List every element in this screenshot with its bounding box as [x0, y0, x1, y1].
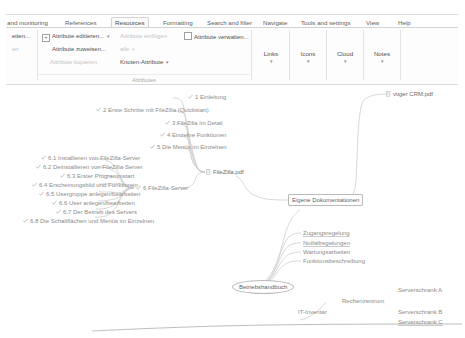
node-label: 6.4 Erscheinungsbild und Funktionen — [39, 182, 138, 188]
check-icon — [39, 191, 44, 197]
cloud-button[interactable]: Cloud ▾ — [330, 40, 360, 74]
attribute-kopieren-button: Attribute kopieren — [50, 58, 97, 66]
chevron-down-icon-notes[interactable]: ▾ — [367, 58, 397, 64]
node-2-erste-schritte[interactable]: 2 Erste Schritte mit FileZilla (Quicksta… — [96, 106, 209, 114]
mindmap-canvas[interactable]: 1 Einleitung 2 Erste Schritte mit FileZi… — [0, 88, 465, 338]
node-label: 4 Einzelne Funktionen — [167, 132, 226, 138]
checkbox-icon[interactable] — [184, 32, 192, 40]
notes-label: Notes — [367, 49, 397, 58]
group-separator-3 — [289, 30, 290, 80]
chevron-down-icon[interactable]: ▾ — [107, 32, 110, 40]
node-label: 6.6 User anlegen/bearbeiten — [59, 200, 135, 206]
group-separator-2 — [251, 30, 252, 80]
node-serverschrank-c[interactable]: Serverschrank C — [398, 318, 443, 326]
knoten-attribute-label: Knoten-Attribute — [120, 59, 163, 65]
check-icon — [150, 144, 155, 150]
chevron-down-icon-cloud[interactable]: ▾ — [330, 58, 360, 64]
group-separator-1 — [37, 30, 38, 80]
node-label: 6.2 Deinstallieren von FileZilla-Server — [43, 164, 143, 170]
ribbon-body: eiten... en +Attribute editieren...▾ Att… — [6, 28, 458, 84]
node-4-einzelne-funktionen[interactable]: 4 Einzelne Funktionen — [160, 131, 226, 139]
attribute-editieren-label: Attribute editieren... — [52, 33, 104, 39]
node-it-inventar[interactable]: IT-Inventar — [298, 308, 327, 316]
node-serverschrank-b[interactable]: Serverschrank B — [398, 308, 442, 316]
check-icon — [160, 132, 165, 138]
node-6-3-erster-programmstart[interactable]: 6.3 Erster Programmstart — [60, 172, 134, 180]
node-6-5-usergruppe[interactable]: 6.5 Usergruppe anlegen/bearbeiten — [39, 190, 140, 198]
node-6-6-user-anlegen[interactable]: 6.6 User anlegen/bearbeiten — [52, 199, 135, 207]
check-icon — [23, 218, 28, 224]
check-icon — [96, 107, 101, 113]
attribute-editieren-button[interactable]: +Attribute editieren...▾ — [42, 32, 110, 42]
node-rechenzentrum[interactable]: Rechenzentrum — [342, 297, 384, 305]
pdf-icon — [386, 91, 391, 97]
node-serverschrank-a[interactable]: Serverschrank A — [398, 286, 442, 294]
node-label: 6.7 Der Betrieb des Servers — [63, 209, 137, 215]
node-label: FileZilla.pdf — [213, 169, 244, 175]
links-label: Links — [256, 49, 286, 58]
check-icon — [52, 200, 57, 206]
attribute-verwalten-button[interactable]: Attribute verwalten... — [184, 32, 249, 41]
chevron-down-icon-knoten[interactable]: ▾ — [166, 58, 169, 66]
check-icon — [188, 94, 193, 100]
attribute-verwalten-label: Attribute verwalten... — [194, 34, 249, 40]
attribute-zuweisen-button[interactable]: Attribute zuweisen... — [52, 45, 106, 53]
node-6-2-deinstallieren[interactable]: 6.2 Deinstallieren von FileZilla-Server — [36, 163, 143, 171]
node-6-1-installieren[interactable]: 6.1 Installieren von FileZilla-Server — [41, 154, 140, 162]
check-icon — [41, 155, 46, 161]
node-label: 6.1 Installieren von FileZilla-Server — [48, 155, 140, 161]
attributes-group-footline — [38, 74, 250, 75]
cloud-label: Cloud — [330, 49, 360, 58]
group-separator-4 — [326, 30, 327, 80]
node-betriebshandbuch[interactable]: Betriebshandbuch — [232, 280, 294, 294]
node-label: 2 Erste Schritte mit FileZilla (Quicksta… — [103, 107, 209, 113]
ribbon-item-en: en — [12, 45, 19, 53]
check-icon — [165, 120, 170, 126]
node-label: 6.8 Die Schaltflächen und Menüs im Einze… — [30, 218, 154, 224]
node-vtiger-crm-pdf[interactable]: vtiger CRM.pdf — [386, 90, 433, 98]
ribbon-toolbar: and monitoring References Resources Form… — [0, 14, 465, 86]
node-notfallregelungen[interactable]: Notfallregelungen — [303, 239, 350, 247]
chevron-down-icon-links[interactable]: ▾ — [256, 58, 286, 64]
node-3-filezilla-im-detail[interactable]: 3 FileZilla im Detail — [165, 119, 223, 127]
attributes-group-label: Attributes — [38, 77, 250, 83]
knoten-attribute-dropdown[interactable]: Knoten-Attribute▾ — [120, 58, 169, 66]
node-filezilla-pdf[interactable]: FileZilla.pdf — [206, 168, 244, 176]
chevron-down-icon-icons[interactable]: ▾ — [293, 58, 323, 64]
node-label: 6.5 Usergruppe anlegen/bearbeiten — [46, 191, 140, 197]
check-icon — [60, 173, 65, 179]
node-5-die-menues[interactable]: 5 Die Menüs im Einzelnen — [150, 143, 227, 151]
node-label: 1 Einleitung — [195, 94, 226, 100]
node-eigene-dokumentationen[interactable]: Eigene Dokumentationen — [288, 194, 363, 206]
node-1-einleitung[interactable]: 1 Einleitung — [188, 93, 226, 101]
plus-icon: + — [42, 34, 50, 42]
notes-button[interactable]: Notes ▾ — [367, 40, 397, 74]
check-icon — [36, 164, 41, 170]
node-6-7-betrieb-des-servers[interactable]: 6.7 Der Betrieb des Servers — [56, 208, 137, 216]
node-label: 6 FileZilla-Server — [143, 185, 188, 191]
node-label: 6.3 Erster Programmstart — [67, 173, 134, 179]
check-icon — [56, 209, 61, 215]
links-button[interactable]: Links ▾ — [256, 40, 286, 74]
node-6-filezilla-server[interactable]: 6 FileZilla-Server — [136, 184, 188, 192]
alle-label: alle — [120, 46, 129, 52]
group-separator-6 — [400, 30, 401, 80]
node-label: 5 Die Menüs im Einzelnen — [157, 144, 227, 150]
node-6-8-schaltflaechen[interactable]: 6.8 Die Schaltflächen und Menüs im Einze… — [23, 217, 154, 225]
icons-label: Icons — [293, 49, 323, 58]
icons-button[interactable]: Icons ▾ — [293, 40, 323, 74]
node-6-4-erscheinungsbild[interactable]: 6.4 Erscheinungsbild und Funktionen — [32, 181, 138, 189]
ribbon-bottom-divider — [6, 84, 458, 85]
node-label: 3 FileZilla im Detail — [172, 120, 223, 126]
check-icon — [32, 182, 37, 188]
node-funktionsbeschreibung[interactable]: Funktionsbeschreibung — [303, 257, 365, 265]
alle-dropdown: alle▾ — [120, 45, 135, 53]
attribute-einfuegen-button: Attribute einfügen — [120, 32, 167, 40]
ribbon-item-eiten[interactable]: eiten... — [12, 32, 30, 40]
check-icon — [136, 185, 141, 191]
node-zugangsregelung[interactable]: Zugangsregelung — [303, 229, 350, 237]
node-label: vtiger CRM.pdf — [393, 91, 433, 97]
ribbon-top-divider — [6, 14, 458, 15]
node-wartungsarbeiten[interactable]: Wartungsarbeiten — [303, 248, 350, 256]
group-separator-5 — [363, 30, 364, 80]
